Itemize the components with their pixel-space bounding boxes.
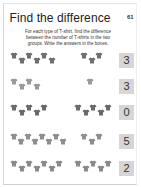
t-shirt-icon bbox=[95, 52, 103, 59]
exercise-row: 5 bbox=[4, 132, 136, 156]
instructions: For each type of T-shirt, find the diffe… bbox=[18, 29, 118, 47]
answer-box[interactable]: 0 bbox=[119, 105, 134, 120]
exercise-row: 0 bbox=[4, 103, 136, 127]
exercise-row: 3 bbox=[4, 51, 136, 75]
answer-box[interactable]: 2 bbox=[119, 161, 134, 176]
t-shirt-icon bbox=[40, 104, 48, 111]
t-shirt-icon bbox=[86, 78, 94, 85]
exercise-row: 3 bbox=[4, 77, 136, 101]
t-shirt-icon bbox=[104, 104, 112, 111]
t-shirt-icon bbox=[95, 133, 103, 140]
exercise-row: 2 bbox=[4, 159, 136, 183]
page-title: Find the difference bbox=[4, 11, 116, 25]
t-shirt-icon bbox=[55, 160, 63, 167]
t-shirt-icon bbox=[33, 83, 41, 90]
worksheet-page: Find the difference 61 For each type of … bbox=[3, 3, 137, 185]
answer-box[interactable]: 5 bbox=[119, 134, 134, 149]
t-shirt-icon bbox=[104, 160, 112, 167]
t-shirt-icon bbox=[48, 57, 56, 64]
answer-box[interactable]: 3 bbox=[119, 53, 134, 68]
answer-box[interactable]: 3 bbox=[119, 79, 134, 94]
page-number: 61 bbox=[127, 14, 134, 20]
t-shirt-icon bbox=[59, 138, 67, 145]
